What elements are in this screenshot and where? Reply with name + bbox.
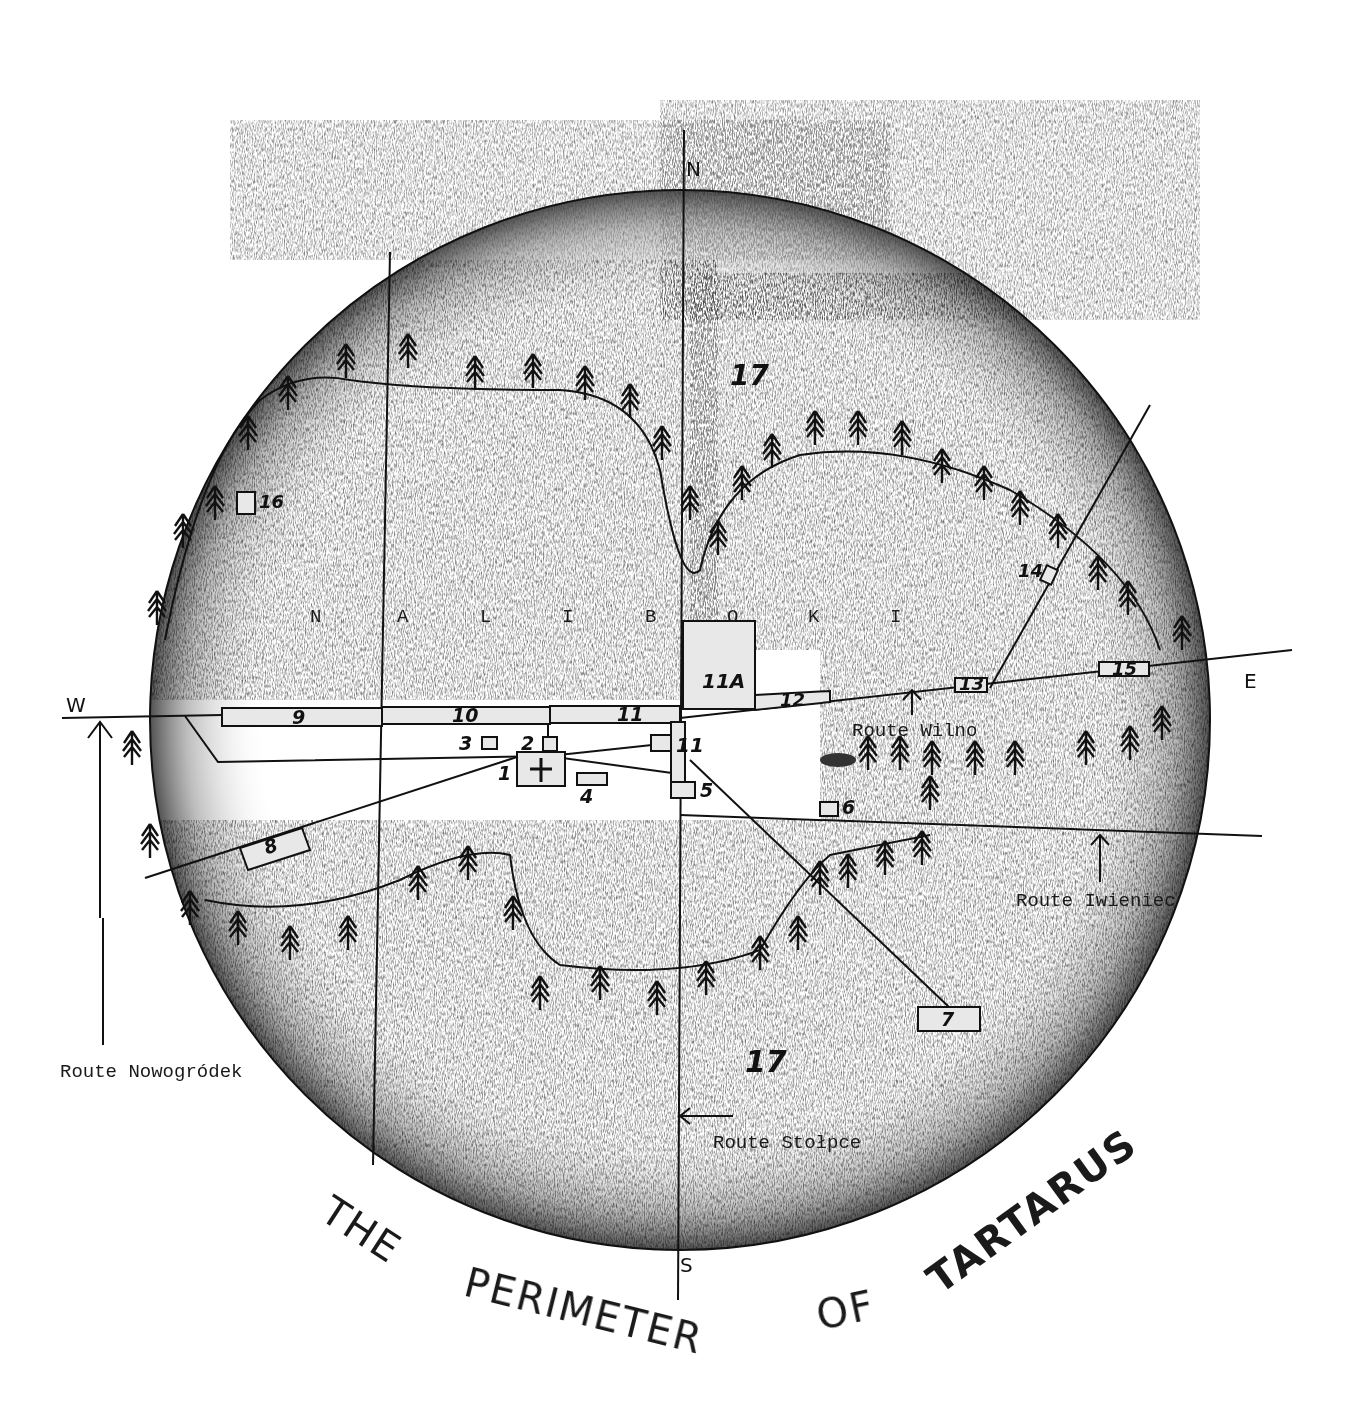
- svg-text:L: L: [480, 606, 491, 628]
- compass-east: E: [1244, 669, 1257, 693]
- title-word-the: THE: [312, 1186, 410, 1272]
- site-11-box: [651, 735, 673, 751]
- site-label-11: 11: [676, 733, 704, 757]
- svg-text:I: I: [890, 606, 901, 628]
- svg-text:N: N: [310, 606, 321, 628]
- title-word-of: OF: [812, 1282, 879, 1339]
- tartarus-perimeter-map: 1 2 3 4 5 6 7 8 9 10 11 11 11A 12 13 14 …: [0, 0, 1349, 1402]
- site-label-13: 13: [959, 673, 984, 694]
- compass-west: W: [66, 693, 86, 717]
- site-label-3: 3: [459, 732, 472, 754]
- site-label-11-strip: 11: [617, 703, 643, 725]
- svg-text:K: K: [808, 606, 820, 628]
- svg-text:A: A: [397, 606, 409, 628]
- site-2-box: [543, 737, 557, 751]
- site-5-box: [671, 782, 695, 798]
- site-label-12: 12: [780, 689, 805, 710]
- site-11-strip: [550, 706, 680, 723]
- site-11a-box: [683, 621, 755, 709]
- site-4-box: [577, 773, 607, 785]
- route-iwieniec-label: Route Iwieniec: [1016, 890, 1176, 912]
- site-label-5: 5: [700, 779, 713, 801]
- site-label-1: 1: [498, 762, 511, 784]
- site-label-4: 4: [579, 785, 593, 807]
- forest-label-south: 17: [745, 1044, 787, 1079]
- title-word-perimeter: PERIMETER: [460, 1259, 708, 1363]
- site-label-10: 10: [452, 704, 478, 726]
- site-label-2: 2: [521, 732, 534, 754]
- site-label-11a: 11A: [702, 669, 745, 693]
- svg-text:I: I: [562, 606, 573, 628]
- svg-text:B: B: [645, 606, 656, 628]
- forest-label-north: 17: [730, 359, 769, 392]
- site-label-16: 16: [259, 491, 284, 512]
- site-label-15: 15: [1112, 658, 1137, 679]
- site-label-14: 14: [1018, 560, 1043, 581]
- route-nowogrodek-label: Route Nowogródek: [60, 1061, 242, 1083]
- svg-text:O: O: [727, 606, 738, 628]
- site-label-7: 7: [941, 1008, 955, 1030]
- site-16-box: [237, 492, 255, 514]
- site-label-6: 6: [842, 796, 855, 818]
- route-wilno-label: Route Wilno: [852, 720, 977, 742]
- site-label-9: 9: [292, 706, 305, 728]
- site-3-box: [482, 737, 497, 749]
- compass-north: N: [686, 157, 701, 181]
- route-stolpce-label: Route Stołpce: [713, 1132, 861, 1154]
- site-6-box: [820, 802, 838, 816]
- compass-south: S: [680, 1253, 693, 1277]
